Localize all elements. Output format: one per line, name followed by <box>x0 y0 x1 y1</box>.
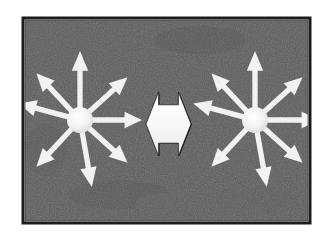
right-source-dot <box>242 107 268 133</box>
left-source-dot <box>67 107 93 133</box>
diagram-canvas <box>0 0 332 241</box>
figure-root: Two radiating point sources connected by… <box>0 0 332 241</box>
